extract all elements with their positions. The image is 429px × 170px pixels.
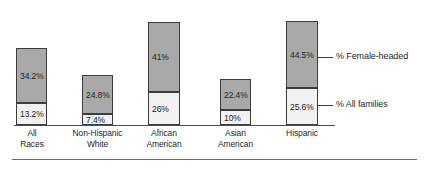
bar-segment-female-headed: 24.8% <box>82 75 113 114</box>
plot-area: 34.2% 13.2% 24.8% 7.4% 41% 26% <box>0 0 429 170</box>
bar-segment-female-headed: 44.5% <box>286 21 318 88</box>
bar-value-label-all-families: 10% <box>224 113 241 123</box>
legend-label-all-families: % All families <box>336 99 388 110</box>
bar-african-american[interactable]: 41% 26% <box>148 22 180 125</box>
footer-divider <box>12 159 417 160</box>
bar-segment-all-families: 13.2% <box>16 103 47 125</box>
bar-segment-all-families: 25.6% <box>286 88 318 125</box>
bar-hispanic[interactable]: 44.5% 25.6% <box>286 21 318 125</box>
bar-segment-all-families: 26% <box>148 92 180 125</box>
category-label-line2: White <box>59 139 136 150</box>
bar-asian-american[interactable]: 22.4% 10% <box>220 79 251 125</box>
bar-segment-female-headed: 41% <box>148 22 180 92</box>
stacked-bar-chart: 34.2% 13.2% 24.8% 7.4% 41% 26% <box>0 0 429 170</box>
category-label-line2: Races <box>6 139 58 150</box>
bar-value-label-all-families: 26% <box>152 104 169 114</box>
category-axis-line <box>14 125 335 126</box>
legend-leader-line-all-families <box>318 105 333 106</box>
category-label-african-american: African American <box>136 128 192 149</box>
bar-value-label-all-families: 7.4% <box>86 115 105 125</box>
bar-segment-all-families: 10% <box>220 110 251 125</box>
category-label-all-races: All Races <box>6 128 58 149</box>
bar-value-label-female-headed: 34.2% <box>20 71 44 81</box>
bar-segment-all-families: 7.4% <box>82 114 113 125</box>
bar-value-label-female-headed: 44.5% <box>290 50 314 60</box>
category-label-asian-american: Asian American <box>207 128 264 149</box>
bar-segment-female-headed: 22.4% <box>220 79 251 110</box>
bar-value-label-all-families: 13.2% <box>20 109 44 119</box>
category-label-line1: Asian <box>207 128 264 139</box>
category-label-line1: African <box>136 128 192 139</box>
legend-label-female-headed: % Female-headed <box>336 51 408 62</box>
bar-value-label-female-headed: 22.4% <box>224 90 248 100</box>
bar-value-label-all-families: 25.6% <box>290 102 314 112</box>
category-label-line2: American <box>207 139 264 150</box>
bar-value-label-female-headed: 41% <box>152 52 169 62</box>
bar-all-races[interactable]: 34.2% 13.2% <box>16 48 47 125</box>
category-label-hispanic: Hispanic <box>276 128 328 139</box>
bar-non-hispanic-white[interactable]: 24.8% 7.4% <box>82 75 113 125</box>
bar-value-label-female-headed: 24.8% <box>86 90 110 100</box>
category-label-line2: American <box>136 139 192 150</box>
bar-segment-female-headed: 34.2% <box>16 48 47 103</box>
category-label-line1: All <box>6 128 58 139</box>
legend-leader-line-female-headed <box>318 57 333 58</box>
category-label-non-hispanic-white: Non-Hispanic White <box>59 128 136 149</box>
category-label-line1: Non-Hispanic <box>59 128 136 139</box>
category-label-line1: Hispanic <box>276 128 328 139</box>
